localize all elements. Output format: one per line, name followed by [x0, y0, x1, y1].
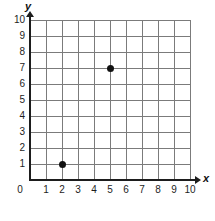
y-axis-line [29, 16, 31, 181]
data-point [59, 161, 66, 168]
grid-line-horizontal [30, 132, 190, 133]
grid-line-horizontal [30, 148, 190, 149]
grid-area [30, 20, 190, 180]
origin-tick-label: 0 [13, 184, 27, 195]
grid-line-horizontal [30, 52, 190, 53]
grid-line-horizontal [30, 116, 190, 117]
y-tick-label: 9 [5, 30, 25, 41]
y-tick-label: 6 [5, 78, 25, 89]
y-tick-label: 5 [5, 94, 25, 105]
grid-line-horizontal [30, 84, 190, 85]
y-tick-label: 3 [5, 126, 25, 137]
y-tick-label: 1 [5, 158, 25, 169]
grid-line-horizontal [30, 164, 190, 165]
y-axis-label: y [25, 0, 31, 12]
x-axis-line [29, 179, 196, 181]
grid-line-horizontal [30, 100, 190, 101]
data-point [107, 65, 114, 72]
grid-line-horizontal [30, 36, 190, 37]
y-tick-label: 7 [5, 62, 25, 73]
y-tick-label: 2 [5, 142, 25, 153]
grid-line-horizontal [30, 20, 190, 21]
x-tick-label: 10 [181, 184, 199, 195]
y-tick-label: 8 [5, 46, 25, 57]
coordinate-plane-figure: y x 0 1234567891012345678910 [0, 0, 215, 221]
grid-line-vertical [190, 20, 191, 180]
y-tick-label: 4 [5, 110, 25, 121]
x-axis-arrow-icon [195, 176, 201, 184]
x-axis-label: x [203, 172, 209, 184]
y-tick-label: 10 [5, 14, 25, 25]
